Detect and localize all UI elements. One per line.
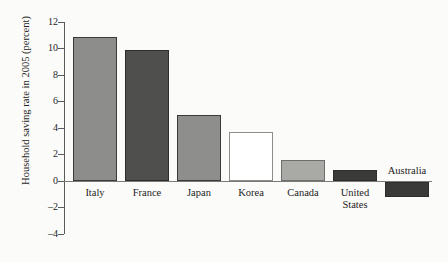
y-tick-mark (58, 48, 64, 49)
bar-united-states (333, 170, 377, 181)
y-tick-mark (58, 154, 64, 155)
y-tick-mark (58, 128, 64, 129)
bar-korea (229, 132, 273, 181)
y-tick-label: 6 (36, 96, 58, 106)
y-tick-label: 8 (36, 70, 58, 80)
y-axis-tick-labels: 12 10 8 6 4 2 0 –2 –4 (30, 0, 58, 262)
bar-australia (385, 182, 429, 197)
bar-label-australia: Australia (375, 165, 439, 177)
x-axis-zero-baseline (64, 181, 432, 182)
y-tick-label: 4 (36, 123, 58, 133)
y-tick-label: 12 (36, 17, 58, 27)
y-axis-line (64, 22, 65, 234)
bar-japan (177, 115, 221, 181)
y-tick-mark (58, 75, 64, 76)
y-tick-label: 0 (36, 176, 58, 186)
bar-label-united-states: United States (323, 187, 387, 211)
bar-italy (73, 37, 117, 181)
bar-canada (281, 160, 325, 181)
y-tick-label: –2 (36, 202, 58, 212)
y-tick-mark (58, 234, 64, 235)
y-axis-title: Household saving rate in 2005 (percent) (20, 6, 31, 196)
bar-france (125, 50, 169, 181)
y-tick-label: 10 (36, 43, 58, 53)
y-tick-mark (58, 22, 64, 23)
chart-figure: 12 10 8 6 4 2 0 –2 –4 Household saving r… (0, 0, 448, 262)
y-tick-label: 2 (36, 149, 58, 159)
y-tick-label: –4 (36, 229, 58, 239)
y-tick-mark (58, 181, 64, 182)
y-tick-mark (58, 101, 64, 102)
y-tick-mark (58, 207, 64, 208)
